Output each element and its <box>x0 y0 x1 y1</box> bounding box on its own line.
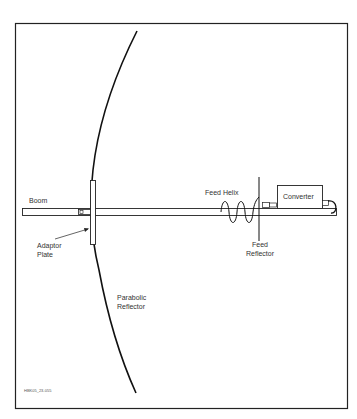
feed-reflector-label: Feed Reflector <box>246 241 274 258</box>
boom-label: Boom <box>29 197 47 206</box>
adaptor-plate-label-line1: Adaptor <box>37 242 62 251</box>
connector-left-nut <box>270 203 277 207</box>
feed-helix-label: Feed Helix <box>205 189 238 198</box>
feed-reflector-label-line1: Feed <box>246 241 274 250</box>
clamp-bolt <box>80 211 83 214</box>
figure-id-label: HBK05_23-055 <box>24 388 51 393</box>
connector-right <box>323 201 329 206</box>
connector-left <box>263 203 270 208</box>
parabolic-reflector-label-line2: Reflector <box>117 303 146 312</box>
adaptor-pointer-line <box>55 229 88 239</box>
adaptor-plate <box>91 181 96 245</box>
antenna-diagram <box>0 0 357 419</box>
boom <box>23 209 337 216</box>
adaptor-plate-label-line2: Plate <box>37 251 62 260</box>
parabolic-reflector-label-line1: Parabolic <box>117 294 146 303</box>
figure-frame <box>16 24 348 409</box>
converter-label: Converter <box>283 193 314 202</box>
parabolic-reflector-label: Parabolic Reflector <box>117 294 146 311</box>
adaptor-plate-label: Adaptor Plate <box>37 242 62 259</box>
feed-reflector-label-line2: Reflector <box>246 250 274 259</box>
adaptor-pointer-arrowhead <box>84 228 89 232</box>
